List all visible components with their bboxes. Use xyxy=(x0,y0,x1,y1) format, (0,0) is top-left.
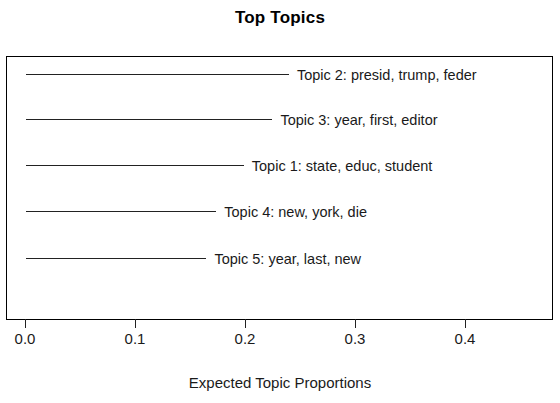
topic-label: Topic 5: year, last, new xyxy=(214,251,361,267)
topic-label: Topic 3: year, first, editor xyxy=(280,112,437,128)
x-axis-tick xyxy=(465,319,466,328)
topic-label: Topic 4: new, york, die xyxy=(224,204,367,220)
topic-bar xyxy=(26,211,216,212)
x-axis-tick xyxy=(245,319,246,328)
x-axis-tick xyxy=(355,319,356,328)
plot-inner: Topic 2: presid, trump, federTopic 3: ye… xyxy=(7,57,552,319)
x-axis-title: Expected Topic Proportions xyxy=(0,374,560,391)
topic-bar xyxy=(26,258,206,259)
chart-figure: Top Topics Topic 2: presid, trump, feder… xyxy=(0,0,560,403)
chart-title: Top Topics xyxy=(0,8,560,28)
topic-label: Topic 1: state, educ, student xyxy=(252,158,433,174)
plot-area: Topic 2: presid, trump, federTopic 3: ye… xyxy=(6,56,553,320)
x-axis-tick-label: 0.0 xyxy=(15,330,36,347)
x-axis-tick-label: 0.2 xyxy=(235,330,256,347)
topic-bar xyxy=(26,119,272,120)
x-axis-tick-label: 0.1 xyxy=(125,330,146,347)
topic-bar xyxy=(26,74,289,75)
x-axis: 0.00.10.20.30.4 xyxy=(6,319,553,379)
x-axis-tick-label: 0.3 xyxy=(345,330,366,347)
topic-bar xyxy=(26,165,244,166)
topic-label: Topic 2: presid, trump, feder xyxy=(297,67,477,83)
x-axis-tick xyxy=(25,319,26,328)
x-axis-tick-label: 0.4 xyxy=(455,330,476,347)
x-axis-tick xyxy=(135,319,136,328)
